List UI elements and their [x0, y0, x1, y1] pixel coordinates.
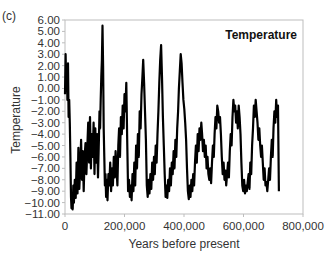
y-axis-title: Temperature — [9, 86, 23, 154]
y-tick-label: −7.00 — [31, 162, 60, 174]
x-tick-label: 0 — [62, 220, 68, 232]
x-tick-label: 600,000 — [223, 220, 265, 232]
y-tick-label: −2.00 — [31, 105, 60, 117]
x-axis: 0200,000400,000600,000800,000 — [62, 214, 324, 232]
x-tick-label: 800,000 — [282, 220, 324, 232]
y-tick-label: −10.00 — [25, 197, 61, 209]
temperature-series-line — [65, 26, 279, 210]
y-tick-label: −6.00 — [31, 151, 60, 163]
y-tick-label: 4.00 — [38, 37, 60, 49]
x-tick-label: 200,000 — [104, 220, 146, 232]
y-tick-label: −4.00 — [31, 128, 60, 140]
x-axis-title: Years before present — [129, 237, 241, 251]
y-tick-label: −1.00 — [31, 94, 60, 106]
y-tick-label: 1.00 — [38, 71, 60, 83]
y-tick-label: 5.00 — [38, 25, 60, 37]
x-tick-label: 400,000 — [163, 220, 205, 232]
y-tick-label: −8.00 — [31, 174, 60, 186]
y-tick-label: 0.00 — [38, 82, 60, 94]
y-tick-label: −9.00 — [31, 185, 60, 197]
y-tick-label: 6.00 — [38, 14, 60, 26]
panel-label: (c) — [2, 9, 16, 23]
y-tick-label: −3.00 — [31, 117, 60, 129]
y-tick-label: 3.00 — [38, 48, 60, 60]
legend-label: Temperature — [225, 28, 297, 42]
y-tick-label: 2.00 — [38, 60, 60, 72]
y-axis: 6.005.004.003.002.001.000.00−1.00−2.00−3… — [25, 14, 66, 220]
y-tick-label: −5.00 — [31, 140, 60, 152]
temperature-chart: (c) 6.005.004.003.002.001.000.00−1.00−2.… — [0, 0, 332, 259]
y-tick-label: −11.00 — [25, 208, 60, 220]
